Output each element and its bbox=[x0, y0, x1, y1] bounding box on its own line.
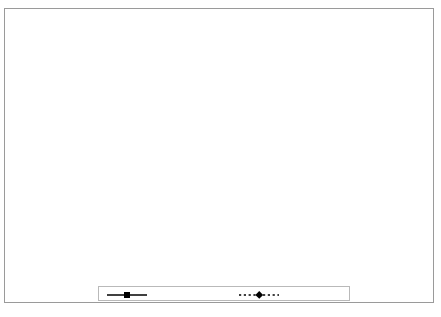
chart-figure bbox=[0, 0, 441, 317]
plot-canvas bbox=[0, 0, 441, 317]
legend bbox=[98, 286, 350, 301]
legend-sample-notified bbox=[107, 291, 147, 299]
legend-sample-prohibited bbox=[239, 291, 279, 299]
